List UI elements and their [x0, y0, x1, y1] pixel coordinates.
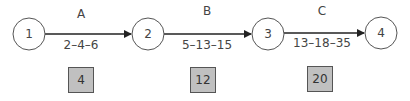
activity-c-expected-box: 20: [307, 66, 333, 92]
activity-b-expected-box: 12: [190, 67, 216, 93]
activity-c-name: C: [318, 4, 326, 18]
node-2-label: 2: [144, 27, 152, 41]
node-1-label: 1: [25, 27, 33, 41]
node-3-label: 3: [264, 27, 272, 41]
activity-c-estimates: 13–18–35: [293, 36, 351, 50]
activity-b-name: B: [203, 4, 211, 18]
node-4-label: 4: [377, 26, 385, 40]
activity-b-estimates: 5–13–15: [182, 38, 232, 52]
activity-a-expected-box: 4: [68, 67, 94, 93]
activity-a-estimates: 2–4–6: [64, 38, 99, 52]
activity-a-name: A: [77, 7, 85, 21]
